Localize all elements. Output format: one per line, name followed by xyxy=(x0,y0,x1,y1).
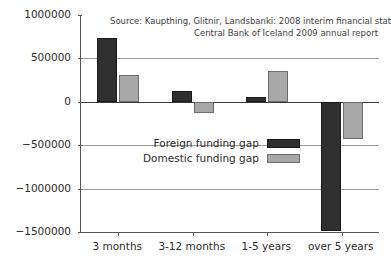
bar-domestic xyxy=(119,75,139,102)
y-axis-tick-label: −1000000 xyxy=(0,182,71,194)
gridline xyxy=(81,58,379,59)
x-axis-category-label: 3 months xyxy=(80,240,155,252)
x-axis-tick xyxy=(342,232,343,236)
bar-domestic xyxy=(343,102,363,139)
y-axis-tick-label: 1000000 xyxy=(0,8,71,20)
bar-foreign xyxy=(246,97,266,102)
y-axis-tick xyxy=(78,189,82,190)
x-axis-tick xyxy=(267,232,268,236)
legend-item-label: Foreign funding gap xyxy=(154,137,259,149)
y-axis-tick xyxy=(78,15,82,16)
bar-domestic xyxy=(268,71,288,102)
bar-foreign xyxy=(321,102,341,231)
x-axis-category-label: 1-5 years xyxy=(229,240,304,252)
y-axis-tick-label: 0 xyxy=(0,95,71,107)
x-axis-category-label: 3-12 months xyxy=(155,240,230,252)
y-axis-tick xyxy=(78,145,82,146)
gridline xyxy=(81,232,379,233)
legend-item: Domestic funding gap xyxy=(143,151,300,165)
chart-legend: Foreign funding gapDomestic funding gap xyxy=(143,136,300,166)
bar-foreign xyxy=(172,91,192,102)
funding-gap-bar-chart: 10000005000000−500000−1000000−1500000 3 … xyxy=(0,0,391,273)
source-note: Source: Kaupthing, Glitnir, Landsbanki: … xyxy=(110,15,378,39)
y-axis-tick-label: −1500000 xyxy=(0,225,71,237)
x-axis-tick xyxy=(193,232,194,236)
source-note-line-1: Source: Kaupthing, Glitnir, Landsbanki: … xyxy=(110,15,378,27)
y-axis-tick-label: 500000 xyxy=(0,51,71,63)
x-axis-tick xyxy=(118,232,119,236)
y-axis-tick xyxy=(78,58,82,59)
legend-item: Foreign funding gap xyxy=(143,136,300,150)
y-axis-tick-label: −500000 xyxy=(0,138,71,150)
y-axis-tick xyxy=(78,232,82,233)
legend-swatch-foreign xyxy=(267,139,300,148)
bar-foreign xyxy=(97,38,117,101)
x-axis-category-label: over 5 years xyxy=(304,240,379,252)
legend-item-label: Domestic funding gap xyxy=(143,152,259,164)
plot-area xyxy=(80,15,378,232)
y-axis-tick xyxy=(78,102,82,103)
bar-domestic xyxy=(194,102,214,113)
legend-swatch-domestic xyxy=(267,154,300,163)
source-note-line-2: Central Bank of Iceland 2009 annual repo… xyxy=(110,27,378,39)
